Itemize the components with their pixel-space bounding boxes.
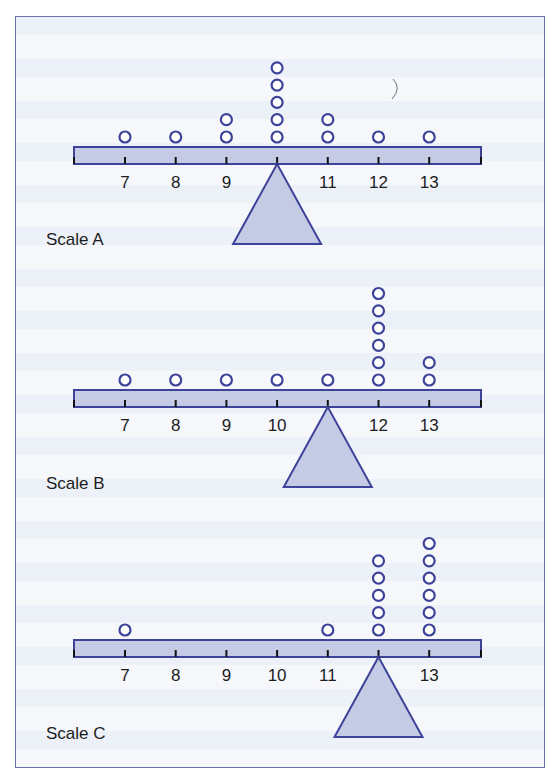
data-dot	[373, 607, 384, 618]
data-dot	[170, 375, 181, 386]
data-dot	[424, 375, 435, 386]
tick-label: 11	[319, 173, 337, 192]
data-dot	[221, 375, 232, 386]
data-dot	[272, 97, 283, 108]
tick-label: 13	[420, 173, 439, 192]
tick-label: 10	[268, 666, 287, 685]
tick-label: 12	[369, 416, 388, 435]
fulcrum-triangle	[335, 657, 423, 737]
data-dot	[424, 607, 435, 618]
scale-b: 78910111213	[74, 288, 481, 487]
fulcrum-triangle	[233, 164, 321, 244]
tick-label: 9	[222, 173, 231, 192]
scale-a: 78910111213	[74, 62, 481, 244]
data-dot	[221, 132, 232, 143]
tick-label: 10	[268, 416, 287, 435]
data-dot	[424, 590, 435, 601]
data-dot	[424, 573, 435, 584]
data-dot	[322, 132, 333, 143]
scale-b-label: Scale B	[46, 474, 105, 494]
scale-a-label: Scale A	[46, 230, 104, 250]
tick-label: 7	[120, 416, 129, 435]
data-dot	[424, 538, 435, 549]
tick-label: 11	[319, 666, 337, 685]
tick-label: 8	[171, 666, 180, 685]
data-dot	[272, 80, 283, 91]
data-dot	[373, 573, 384, 584]
tick-label: 7	[120, 666, 129, 685]
data-dot	[424, 625, 435, 636]
data-dot	[272, 375, 283, 386]
data-dot	[373, 132, 384, 143]
stray-curve-mark	[392, 79, 397, 99]
data-dot	[373, 625, 384, 636]
scale-c: 78910111213	[74, 538, 481, 737]
tick-label: 7	[120, 173, 129, 192]
data-dot	[120, 132, 131, 143]
data-dot	[424, 132, 435, 143]
data-dot	[221, 114, 232, 125]
data-dot	[373, 323, 384, 334]
balance-scales-diagram: 78910111213 78910111213 78910111213	[0, 0, 557, 782]
tick-label: 8	[171, 416, 180, 435]
data-dot	[272, 114, 283, 125]
tick-label: 8	[171, 173, 180, 192]
data-dot	[424, 555, 435, 566]
tick-label: 9	[222, 666, 231, 685]
data-dot	[170, 132, 181, 143]
tick-label: 13	[420, 666, 439, 685]
data-dot	[373, 305, 384, 316]
data-dot	[322, 625, 333, 636]
scale-c-label: Scale C	[46, 724, 106, 744]
data-dot	[373, 555, 384, 566]
data-dot	[322, 375, 333, 386]
data-dot	[120, 375, 131, 386]
data-dot	[373, 357, 384, 368]
data-dot	[373, 288, 384, 299]
data-dot	[373, 340, 384, 351]
tick-label: 13	[420, 416, 439, 435]
fulcrum-triangle	[284, 407, 372, 487]
data-dot	[373, 375, 384, 386]
data-dot	[322, 114, 333, 125]
tick-label: 9	[222, 416, 231, 435]
data-dot	[424, 357, 435, 368]
tick-label: 12	[369, 173, 388, 192]
data-dot	[373, 590, 384, 601]
data-dot	[272, 132, 283, 143]
data-dot	[272, 62, 283, 73]
data-dot	[120, 625, 131, 636]
